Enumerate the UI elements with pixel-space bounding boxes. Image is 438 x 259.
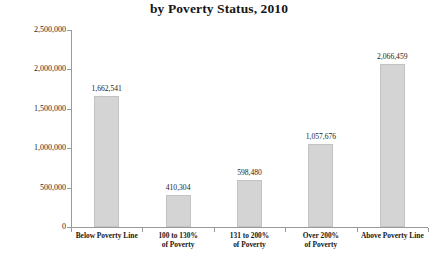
bar-value-label: 410,304 bbox=[138, 184, 218, 192]
y-tick-label: 1,000,000 bbox=[34, 144, 66, 152]
plot-area: 0500,0001,000,0001,500,0002,000,0002,500… bbox=[71, 30, 428, 228]
bar bbox=[94, 96, 119, 227]
x-category-label: Above Poverty Line bbox=[347, 231, 437, 240]
y-tick-mark bbox=[67, 30, 71, 31]
bar-chart: by Poverty Status, 2010 Recipients 0500,… bbox=[0, 0, 438, 259]
y-tick-label: 1,500,000 bbox=[34, 105, 66, 113]
y-tick-mark bbox=[67, 109, 71, 110]
y-tick-labels: 0500,0001,000,0001,500,0002,000,0002,500… bbox=[3, 30, 66, 228]
y-tick-label: 0 bbox=[62, 223, 66, 231]
bar bbox=[380, 64, 405, 227]
bar bbox=[308, 144, 333, 227]
bar-value-label: 1,662,541 bbox=[67, 85, 147, 93]
y-tick-mark bbox=[67, 148, 71, 149]
y-tick-label: 500,000 bbox=[40, 184, 66, 192]
bar-value-label: 1,057,676 bbox=[281, 133, 361, 141]
y-tick-label: 2,500,000 bbox=[34, 26, 66, 34]
bar-value-label: 598,480 bbox=[210, 169, 290, 177]
y-axis-line bbox=[71, 30, 72, 228]
bar-value-label: 2,066,459 bbox=[352, 53, 432, 61]
y-tick-label: 2,000,000 bbox=[34, 65, 66, 73]
chart-title: by Poverty Status, 2010 bbox=[0, 1, 438, 17]
y-tick-mark bbox=[67, 69, 71, 70]
bar bbox=[237, 180, 262, 227]
x-axis-line bbox=[71, 227, 428, 228]
y-tick-mark bbox=[67, 188, 71, 189]
bar bbox=[166, 195, 191, 227]
